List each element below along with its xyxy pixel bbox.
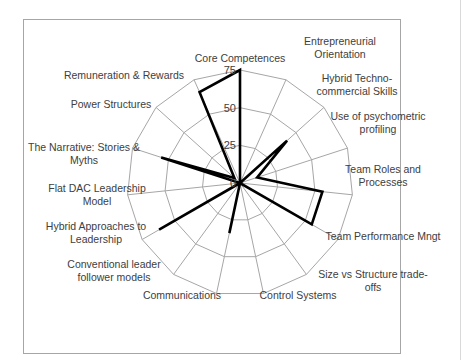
- series-line: [159, 70, 322, 233]
- axis-label: Team Performance Mngt: [326, 230, 441, 242]
- axis-label: Communications: [143, 289, 221, 301]
- radar-chart: 0255075 Core CompetencesEntrepreneurialO…: [0, 0, 465, 360]
- tick-label: 50: [224, 102, 236, 114]
- grid-spoke: [240, 80, 286, 183]
- radar-series: [159, 70, 322, 233]
- axis-label: Team Roles andProcesses: [345, 163, 421, 188]
- axis-label: Remuneration & Rewards: [64, 69, 184, 81]
- axis-label: Hybrid Techno-commercial Skills: [316, 72, 397, 97]
- axis-label: Conventional leaderfollower models: [67, 258, 161, 283]
- axis-label: Power Structures: [71, 98, 152, 110]
- tick-label: 75: [224, 64, 236, 76]
- axis-label: EntrepreneurialOrientation: [304, 35, 376, 60]
- axis-label: Core Competences: [195, 52, 285, 64]
- axis-label: Control Systems: [259, 289, 336, 301]
- axis-label: Hybrid Approaches toLeadership: [46, 220, 147, 245]
- tick-label: 25: [224, 139, 236, 151]
- axis-label: Use of psychometricprofiling: [330, 110, 425, 135]
- axis-label: The Narrative: Stories &Myths: [28, 141, 140, 166]
- tick-label: 0: [230, 177, 236, 189]
